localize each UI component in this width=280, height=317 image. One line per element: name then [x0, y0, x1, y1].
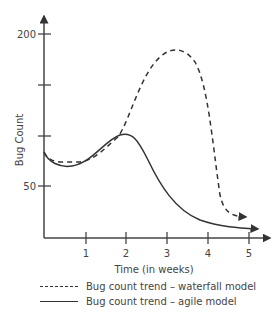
legend-label-waterfall: Bug count trend – waterfall model	[86, 281, 256, 292]
x-tick-1: 1	[83, 248, 89, 259]
solid-line-icon	[40, 301, 78, 302]
x-axis-label: Time (in weeks)	[0, 264, 280, 275]
y-axis-label: Bug Count	[14, 114, 25, 167]
x-tick-3: 3	[164, 248, 170, 259]
x-tick-4: 4	[205, 248, 211, 259]
x-tick-5: 5	[246, 248, 252, 259]
y-tick-200: 200	[17, 29, 36, 40]
waterfall-curve	[44, 50, 246, 217]
x-tick-2: 2	[123, 248, 129, 259]
dashed-line-icon	[40, 286, 78, 287]
legend-label-agile: Bug count trend – agile model	[86, 296, 237, 307]
legend-item-waterfall: Bug count trend – waterfall model	[40, 279, 256, 293]
y-tick-50: 50	[23, 181, 36, 192]
legend-item-agile: Bug count trend – agile model	[40, 294, 237, 308]
agile-curve	[44, 134, 258, 229]
